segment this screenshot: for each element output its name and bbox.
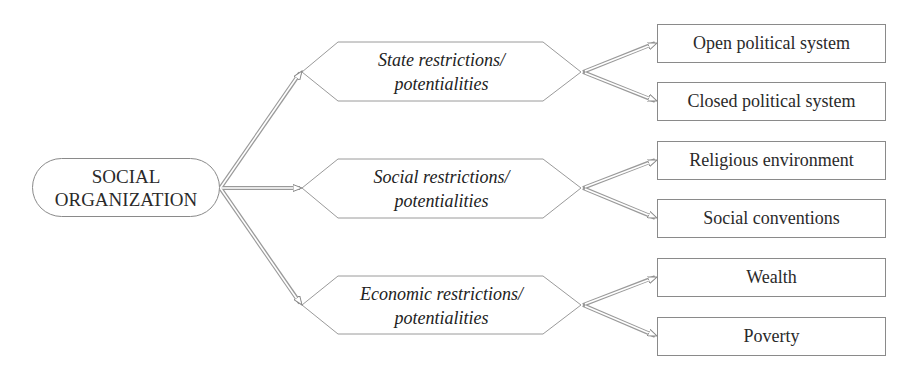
leaf-religious-environment: Religious environment bbox=[657, 141, 886, 180]
category-label-line1: Social restrictions/ bbox=[374, 165, 510, 189]
category-label-line2: potentialities bbox=[395, 72, 489, 96]
leaf-poverty: Poverty bbox=[657, 317, 886, 356]
category-label-line2: potentialities bbox=[395, 306, 489, 330]
category-label-line2: potentialities bbox=[395, 189, 489, 213]
category-label-line1: State restrictions/ bbox=[378, 48, 505, 72]
leaf-closed-political-system: Closed political system bbox=[657, 82, 886, 121]
category-economic: Economic restrictions/ potentialities bbox=[302, 276, 581, 335]
root-node-social-organization: SOCIAL ORGANIZATION bbox=[32, 158, 220, 217]
category-state: State restrictions/ potentialities bbox=[302, 42, 581, 101]
leaf-open-political-system: Open political system bbox=[657, 24, 886, 63]
category-social: Social restrictions/ potentialities bbox=[302, 159, 581, 218]
category-label-line1: Economic restrictions/ bbox=[360, 282, 523, 306]
leaf-social-conventions: Social conventions bbox=[657, 199, 886, 238]
leaf-wealth: Wealth bbox=[657, 258, 886, 297]
root-label-line2: ORGANIZATION bbox=[55, 188, 197, 211]
root-label-line1: SOCIAL bbox=[92, 165, 161, 188]
